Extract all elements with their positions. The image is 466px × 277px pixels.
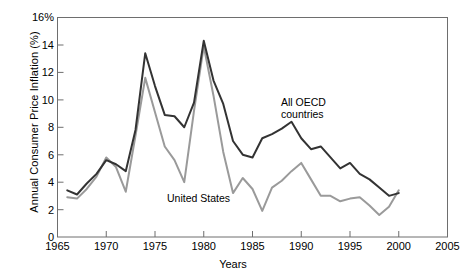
series-annotation-oecd-line2: countries: [281, 108, 326, 120]
series-line-united-states: [67, 46, 399, 215]
series-line-all-oecd-countries: [67, 41, 399, 196]
series-annotation-united-states: United States: [167, 192, 230, 204]
plot-area: [0, 0, 466, 277]
y-axis-tick-marks: [58, 18, 64, 210]
inflation-line-chart: Annual Consumer Price Inflation (%) 16% …: [0, 0, 466, 277]
series-annotation-oecd: All OECD countries: [281, 96, 326, 120]
x-axis-tick-marks: [58, 231, 448, 237]
x-tick-label: 2005: [418, 240, 466, 252]
x-axis-title: Years: [0, 258, 466, 270]
axis-frame: [58, 18, 448, 238]
series-annotation-oecd-line1: All OECD: [281, 96, 326, 108]
